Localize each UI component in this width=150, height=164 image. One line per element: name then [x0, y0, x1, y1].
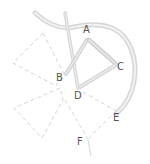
- label-f: F: [77, 137, 83, 147]
- dashed-line-to-f: [65, 100, 88, 139]
- geometry-diagram: [0, 0, 150, 164]
- dashed-square-lower: [14, 88, 63, 138]
- line-below-f: [88, 140, 91, 156]
- label-e: E: [113, 113, 119, 123]
- label-b: B: [56, 73, 63, 83]
- label-c: C: [117, 62, 124, 72]
- label-a: A: [83, 25, 90, 35]
- label-d: D: [74, 91, 82, 101]
- dashed-line-e-f: [88, 111, 116, 139]
- dashed-line-d-e: [83, 92, 116, 111]
